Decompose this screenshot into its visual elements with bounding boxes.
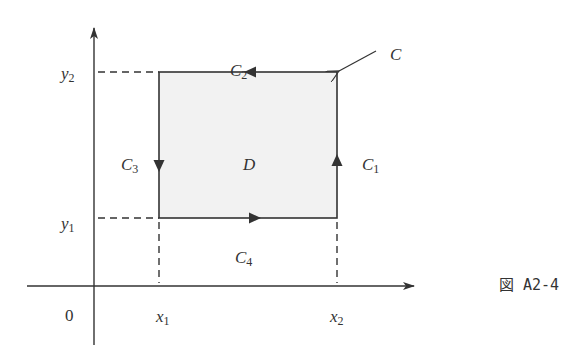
origin-label: 0: [65, 306, 74, 325]
green-theorem-diagram: 0 y2 y1 x1 x2 C2 C3 C1 C4 D C 図 A2-4: [0, 0, 582, 362]
region-d-label: D: [242, 155, 256, 174]
c1-label: C1: [362, 155, 379, 176]
c-pointer-arrow: [339, 51, 376, 71]
c2-label: C2: [230, 61, 247, 82]
region-d: [159, 72, 337, 218]
figure-canvas: 0 y2 y1 x1 x2 C2 C3 C1 C4 D C 図 A2-4: [0, 0, 582, 362]
c3-label: C3: [121, 155, 138, 176]
x1-label: x1: [155, 307, 170, 328]
c4-label: C4: [235, 248, 252, 269]
y2-label: y2: [59, 64, 75, 85]
boundary-c-label: C: [390, 45, 402, 64]
x2-label: x2: [329, 307, 344, 328]
y1-label: y1: [59, 214, 75, 235]
figure-caption: 図 A2-4: [499, 276, 559, 294]
